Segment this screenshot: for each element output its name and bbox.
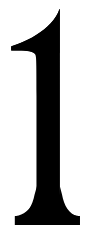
image-canvas: 1 (0, 0, 94, 234)
numeral-one-glyph (0, 0, 94, 234)
